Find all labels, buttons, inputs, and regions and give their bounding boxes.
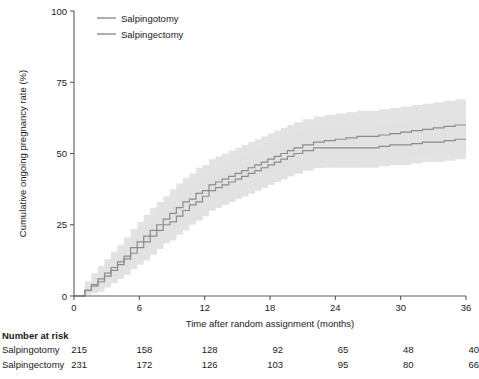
x-tick-label: 30	[395, 302, 406, 313]
risk-value: 231	[61, 359, 87, 370]
risk-value: 66	[453, 359, 479, 370]
y-tick-label: 0	[62, 291, 67, 302]
risk-row-label: Salpingectomy	[2, 359, 64, 370]
x-axis-title: Time after random assignment (months)	[186, 318, 355, 329]
risk-value: 172	[126, 359, 152, 370]
y-tick-label: 50	[56, 148, 67, 159]
number-at-risk-table: Number at risk Salpingotomy2151581289265…	[0, 330, 476, 374]
risk-value: 48	[388, 344, 414, 355]
risk-value: 80	[388, 359, 414, 370]
risk-row: Salpingotomy21515812892654840	[0, 344, 476, 359]
risk-row-label: Salpingotomy	[2, 344, 60, 355]
risk-value: 128	[192, 344, 218, 355]
risk-value: 92	[257, 344, 283, 355]
risk-value: 103	[257, 359, 283, 370]
y-axis-title: Cumulative ongoing pregnancy rate (%)	[17, 70, 28, 237]
y-tick-label: 25	[56, 219, 67, 230]
risk-value: 95	[322, 359, 348, 370]
risk-row: Salpingectomy231172126103958066	[0, 359, 476, 374]
chart-canvas: 0255075100061218243036Time after random …	[0, 0, 476, 330]
x-tick-label: 36	[461, 302, 472, 313]
x-tick-label: 24	[330, 302, 341, 313]
risk-value: 126	[192, 359, 218, 370]
x-tick-label: 18	[265, 302, 276, 313]
risk-value: 158	[126, 344, 152, 355]
x-tick-label: 0	[71, 302, 76, 313]
risk-value: 215	[61, 344, 87, 355]
legend-label-0: Salpingotomy	[121, 13, 179, 24]
x-tick-label: 12	[199, 302, 210, 313]
y-tick-label: 100	[51, 6, 67, 17]
legend-label-1: Salpingectomy	[121, 29, 184, 40]
risk-value: 65	[322, 344, 348, 355]
risk-table-title: Number at risk	[2, 330, 476, 341]
risk-table-rows: Salpingotomy21515812892654840Salpingecto…	[0, 344, 476, 374]
y-tick-label: 75	[56, 77, 67, 88]
x-tick-label: 6	[137, 302, 142, 313]
risk-value: 40	[453, 344, 479, 355]
